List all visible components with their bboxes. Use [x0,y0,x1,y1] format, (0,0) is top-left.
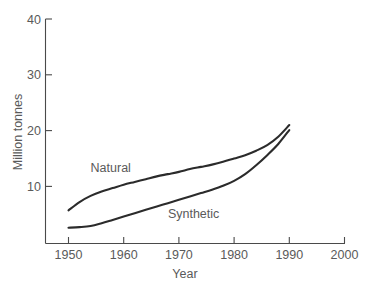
y-tick-label-20: 20 [27,124,41,138]
x-tick-label-1990: 1990 [275,248,303,262]
chart-background [0,0,367,290]
series-label-synthetic: Synthetic [168,207,219,221]
chart-figure: 40 30 20 10 1950 1960 1970 1980 1990 200… [0,0,367,290]
x-tick-label-1980: 1980 [220,248,248,262]
x-tick-label-1950: 1950 [55,248,83,262]
y-tick-label-40: 40 [27,13,41,27]
x-tick-label-1970: 1970 [165,248,193,262]
x-axis-title: Year [172,267,197,281]
line-chart: 40 30 20 10 1950 1960 1970 1980 1990 200… [0,0,367,290]
y-tick-label-30: 30 [27,68,41,82]
y-axis-title: Million tonnes [11,94,25,170]
y-tick-label-10: 10 [27,180,41,194]
x-tick-label-2000: 2000 [331,248,359,262]
x-tick-label-1960: 1960 [110,248,138,262]
series-label-natural: Natural [91,161,131,175]
